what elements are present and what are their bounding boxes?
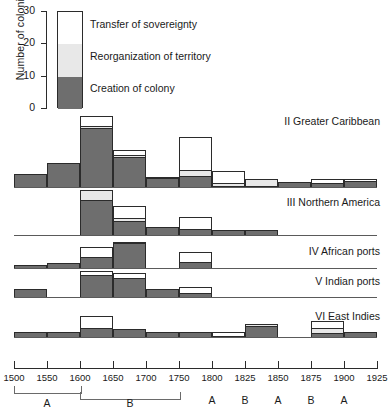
bar-segment-creation xyxy=(14,332,47,337)
bar-segment-creation xyxy=(344,332,377,337)
panel-east-indies: VI East Indies xyxy=(0,0,389,413)
bar-segment-creation xyxy=(80,329,113,337)
x-tick-label-1850: 1850 xyxy=(261,372,295,383)
chart-figure: Number of colonies 3020100 Transfer of s… xyxy=(0,0,389,413)
x-tick-label-1700: 1700 xyxy=(129,372,163,383)
period-label-3: A xyxy=(201,394,223,406)
period-label-2: B xyxy=(119,397,141,409)
x-tick-1500 xyxy=(14,361,15,369)
x-tick-1550 xyxy=(47,361,48,369)
bar xyxy=(179,332,212,337)
period-label-6: B xyxy=(300,394,322,406)
bar-segment-creation xyxy=(146,332,179,337)
x-tick-1925 xyxy=(377,361,378,369)
x-tick-1600 xyxy=(80,361,81,369)
x-tick-label-1600: 1600 xyxy=(63,372,97,383)
x-tick-1800 xyxy=(212,361,213,369)
x-tick-label-1800: 1800 xyxy=(195,372,229,383)
bar-segment-creation xyxy=(311,334,344,337)
bar xyxy=(80,316,113,337)
x-tick-label-1925: 1925 xyxy=(360,372,389,383)
period-label-1: A xyxy=(36,397,58,409)
x-tick-1825 xyxy=(245,361,246,369)
bar-segment-transfer xyxy=(311,321,344,329)
bar xyxy=(47,332,80,337)
bar xyxy=(146,332,179,337)
x-tick-label-1900: 1900 xyxy=(327,372,361,383)
bar-segment-transfer xyxy=(80,316,113,329)
x-tick-label-1650: 1650 xyxy=(96,372,130,383)
x-tick-label-1825: 1825 xyxy=(228,372,262,383)
x-tick-1900 xyxy=(344,361,345,369)
x-tick-1650 xyxy=(113,361,114,369)
period-label-5: A xyxy=(267,394,289,406)
panel-baseline xyxy=(14,337,377,338)
bar-segment-transfer xyxy=(212,332,245,337)
bar xyxy=(311,321,344,337)
bar xyxy=(212,332,245,337)
bar-segment-creation xyxy=(245,327,278,337)
bar-segment-creation xyxy=(179,332,212,337)
x-tick-label-1550: 1550 xyxy=(30,372,64,383)
x-tick-1875 xyxy=(311,361,312,369)
x-tick-label-1750: 1750 xyxy=(162,372,196,383)
x-tick-label-1875: 1875 xyxy=(294,372,328,383)
bar xyxy=(14,332,47,337)
x-tick-label-1500: 1500 xyxy=(0,372,31,383)
bar-segment-creation xyxy=(47,332,80,337)
x-axis-line xyxy=(14,368,377,369)
period-label-7: A xyxy=(333,394,355,406)
x-tick-1850 xyxy=(278,361,279,369)
x-tick-1700 xyxy=(146,361,147,369)
bar xyxy=(245,324,278,337)
bar xyxy=(344,332,377,337)
bar xyxy=(113,329,146,337)
period-label-4: B xyxy=(234,394,256,406)
period-bracket-1 xyxy=(14,386,82,394)
bar-segment-creation xyxy=(113,329,146,337)
x-tick-1750 xyxy=(179,361,180,369)
panel-label-VI: VI East Indies xyxy=(315,310,380,322)
